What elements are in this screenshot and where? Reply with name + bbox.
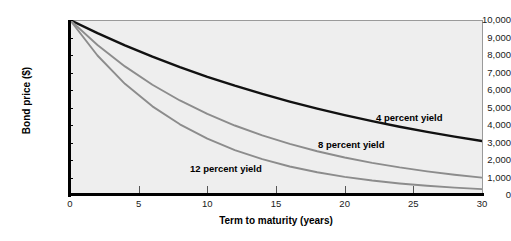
y-tick-mark xyxy=(68,178,73,179)
y-tick-mark xyxy=(68,55,73,56)
y-tick-label: 6,000 xyxy=(453,85,511,95)
y-tick-mark xyxy=(68,20,73,21)
bond-price-chart: 01,0002,0003,0004,0005,0006,0007,0008,00… xyxy=(0,0,511,241)
y-axis-line xyxy=(68,20,71,197)
x-tick-label: 0 xyxy=(50,199,90,209)
y-tick-mark xyxy=(68,160,73,161)
y-tick-label: 8,000 xyxy=(453,50,511,60)
x-tick-label: 10 xyxy=(187,199,227,209)
x-tick-mark xyxy=(276,186,277,193)
y-tick-mark xyxy=(68,143,73,144)
x-tick-label: 5 xyxy=(119,199,159,209)
y-tick-label: 4,000 xyxy=(453,120,511,130)
y-tick-mark xyxy=(68,125,73,126)
series-label-4-percent-yield: 4 percent yield xyxy=(376,113,443,123)
x-tick-label: 15 xyxy=(256,199,296,209)
y-tick-label: 7,000 xyxy=(453,68,511,78)
y-tick-label: 10,000 xyxy=(453,15,511,25)
x-axis-line xyxy=(68,193,484,196)
y-tick-mark xyxy=(68,73,73,74)
x-tick-mark xyxy=(207,186,208,193)
x-axis-title: Term to maturity (years) xyxy=(70,215,482,226)
y-tick-mark xyxy=(68,90,73,91)
y-tick-mark xyxy=(68,108,73,109)
series-curve xyxy=(70,20,482,189)
y-tick-label: 9,000 xyxy=(453,33,511,43)
x-tick-mark xyxy=(139,186,140,193)
curve-layer xyxy=(70,20,482,195)
y-tick-label: 1,000 xyxy=(453,173,511,183)
y-axis-title: Bond price ($) xyxy=(21,41,32,161)
y-tick-label: 2,000 xyxy=(453,155,511,165)
x-tick-label: 25 xyxy=(393,199,433,209)
y-tick-mark xyxy=(68,38,73,39)
x-tick-mark xyxy=(345,186,346,193)
x-tick-label: 20 xyxy=(325,199,365,209)
x-tick-label: 30 xyxy=(462,199,502,209)
series-label-8-percent-yield: 8 percent yield xyxy=(318,140,385,150)
y-tick-label: 3,000 xyxy=(453,138,511,148)
series-label-12-percent-yield: 12 percent yield xyxy=(190,164,262,174)
x-tick-mark xyxy=(413,186,414,193)
y-tick-label: 5,000 xyxy=(453,103,511,113)
